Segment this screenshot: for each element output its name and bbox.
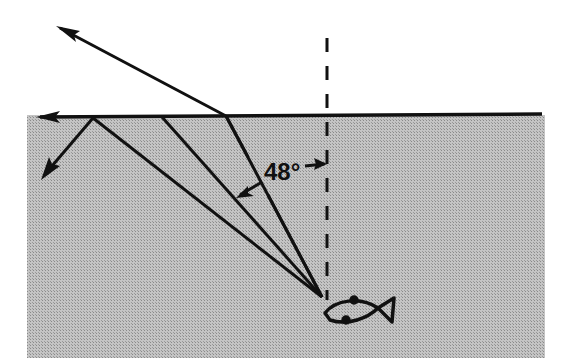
water-region xyxy=(27,115,545,358)
angle-label: 48° xyxy=(264,158,300,185)
ray-refracted-air xyxy=(60,28,226,116)
refraction-diagram: 48° xyxy=(0,0,573,363)
refracted-arrow-icon xyxy=(56,26,80,42)
